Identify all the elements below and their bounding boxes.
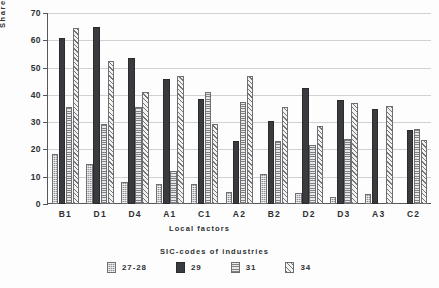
y-axis-tick-label: 10 (17, 172, 41, 182)
bar-group (48, 13, 83, 204)
bar (156, 184, 162, 204)
bar (351, 103, 357, 204)
bar (407, 130, 413, 204)
x-axis-tick-label: A2 (222, 209, 257, 219)
y-axis-tick-label: 50 (17, 63, 41, 73)
bar (282, 107, 288, 204)
bar (233, 141, 239, 204)
bar (260, 174, 266, 204)
bar (73, 28, 79, 204)
x-axis-tick-label: C2 (396, 209, 431, 219)
y-axis-tick-labels: 010203040506070 (0, 13, 41, 204)
legend-swatch-icon (231, 262, 240, 273)
bar-group (83, 13, 118, 204)
x-axis-tick-label: D1 (83, 209, 118, 219)
legend: 27-28293134 (107, 262, 311, 273)
bar (240, 102, 246, 204)
legend-swatch-icon (107, 262, 116, 273)
bar (309, 145, 315, 204)
bar-group (292, 13, 327, 204)
legend-item[interactable]: 31 (231, 262, 257, 273)
x-axis-tick-label: A1 (152, 209, 187, 219)
bar (86, 164, 92, 204)
legend-label: 34 (300, 263, 311, 272)
bar (93, 27, 99, 204)
bar (386, 106, 392, 204)
bar (330, 197, 336, 204)
bar (121, 182, 127, 204)
bar-group (396, 13, 431, 204)
legend-label: 27-28 (122, 263, 147, 272)
bar (295, 193, 301, 204)
bar (268, 121, 274, 204)
y-axis-tick-label: 20 (17, 144, 41, 154)
x-axis-tick-label: A3 (361, 209, 396, 219)
bar (275, 141, 281, 204)
bar (198, 99, 204, 204)
x-axis-title-text: Local factors (169, 224, 230, 233)
bar (108, 61, 114, 204)
x-axis-title: Local factors (169, 224, 230, 233)
legend-label: 29 (191, 263, 202, 272)
bar (365, 194, 371, 204)
bar (59, 38, 65, 204)
legend-item[interactable]: 34 (285, 262, 311, 273)
bar-groups (48, 13, 431, 204)
x-axis-tick-labels: B1D1D4A1C1A2B2D2D3A3C2 (48, 209, 431, 219)
bar (317, 126, 323, 204)
y-axis-tick-label: 70 (17, 8, 41, 18)
bar (212, 124, 218, 204)
x-axis-tick-label: D3 (327, 209, 362, 219)
bar-group (327, 13, 362, 204)
y-axis-tick (43, 204, 48, 205)
bar-chart-figure: Share of firms (%) 010203040506070 B1D1D… (0, 0, 439, 288)
bar (101, 124, 107, 204)
bar (66, 107, 72, 204)
bar (421, 140, 427, 204)
y-axis-tick-label: 40 (17, 90, 41, 100)
bar (226, 192, 232, 204)
y-axis-tick-label: 0 (17, 199, 41, 209)
bar (170, 171, 176, 204)
bar (414, 129, 420, 204)
legend-title-text: SIC-codes of industries (160, 247, 269, 256)
x-axis-tick-label: C1 (187, 209, 222, 219)
bar (302, 88, 308, 204)
legend-item[interactable]: 27-28 (107, 262, 147, 273)
bar (128, 58, 134, 204)
bar (135, 107, 141, 204)
legend-title: SIC-codes of industries (160, 247, 269, 256)
x-axis-tick-label: D2 (292, 209, 327, 219)
bar (344, 139, 350, 204)
x-axis-tick-label: B2 (257, 209, 292, 219)
bar (247, 76, 253, 204)
bar-group (361, 13, 396, 204)
bar (142, 92, 148, 204)
x-axis-tick-label: B1 (48, 209, 83, 219)
bar (337, 100, 343, 204)
legend-swatch-icon (285, 262, 294, 273)
bar-group (222, 13, 257, 204)
y-axis-tick-label: 30 (17, 117, 41, 127)
legend-swatch-icon (176, 262, 185, 273)
bar (205, 92, 211, 204)
bar (372, 109, 378, 205)
y-axis-tick-label: 60 (17, 35, 41, 45)
bar (52, 154, 58, 204)
legend-label: 31 (246, 263, 257, 272)
bar-group (257, 13, 292, 204)
bar-group (152, 13, 187, 204)
bar (177, 76, 183, 204)
x-axis-tick-label: D4 (118, 209, 153, 219)
bar-group (187, 13, 222, 204)
bar-group (118, 13, 153, 204)
bar (163, 79, 169, 205)
legend-item[interactable]: 29 (176, 262, 202, 273)
bar (191, 184, 197, 204)
